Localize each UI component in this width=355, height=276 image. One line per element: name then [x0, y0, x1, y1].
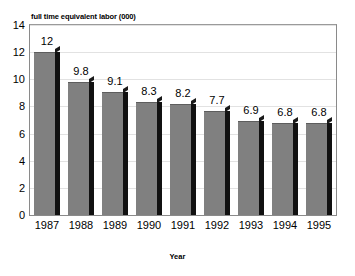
- bar-side-face: [327, 123, 332, 215]
- bar-front-face: [136, 102, 158, 215]
- y-axis: 02468101214: [0, 24, 25, 216]
- x-axis-tick-label: 1994: [268, 219, 302, 231]
- bar[interactable]: [306, 123, 333, 215]
- x-axis-tick-label: 1993: [234, 219, 268, 231]
- x-axis-tick-label: 1990: [132, 219, 166, 231]
- bar-slot: 6.9: [238, 25, 265, 215]
- bar-chart: full time equivalent labor (000) 0246810…: [0, 0, 355, 276]
- x-axis-tick-label: 1992: [200, 219, 234, 231]
- x-axis: 198719881989199019911992199319941995: [30, 219, 336, 233]
- bar-value-label: 7.7: [204, 95, 231, 106]
- bar[interactable]: [34, 52, 61, 215]
- bar-value-label: 9.8: [68, 66, 95, 77]
- x-axis-tick-label: 1987: [30, 219, 64, 231]
- y-axis-tick-label: 8: [3, 101, 25, 112]
- bar-slot: 6.8: [306, 25, 333, 215]
- bar[interactable]: [238, 121, 265, 215]
- x-axis-tick-label: 1988: [64, 219, 98, 231]
- bar-side-face: [259, 121, 264, 215]
- bar-value-label: 6.9: [238, 105, 265, 116]
- bar-slot: 8.2: [170, 25, 197, 215]
- x-axis-tick-label: 1995: [302, 219, 336, 231]
- bar[interactable]: [204, 111, 231, 216]
- bar-front-face: [272, 123, 294, 215]
- bar[interactable]: [136, 102, 163, 215]
- bar-front-face: [102, 92, 124, 216]
- bar-side-face: [225, 111, 230, 216]
- bar-slot: 9.8: [68, 25, 95, 215]
- y-axis-tick-label: 4: [3, 155, 25, 166]
- bar-side-face: [293, 123, 298, 215]
- bar-side-face: [157, 102, 162, 215]
- bar-slot: 6.8: [272, 25, 299, 215]
- y-axis-tick-label: 14: [3, 20, 25, 31]
- y-axis-tick-label: 10: [3, 74, 25, 85]
- bar-front-face: [34, 52, 56, 215]
- y-axis-tick-label: 6: [3, 128, 25, 139]
- chart-title: full time equivalent labor (000): [31, 12, 136, 21]
- bar[interactable]: [170, 104, 197, 215]
- bar-front-face: [238, 121, 260, 215]
- x-axis-tick-label: 1991: [166, 219, 200, 231]
- bar-side-face: [123, 92, 128, 216]
- bar-value-label: 6.8: [272, 107, 299, 118]
- bar-slot: 9.1: [102, 25, 129, 215]
- bars-group: 129.89.18.38.27.76.96.86.8: [30, 25, 336, 215]
- bar-value-label: 8.3: [136, 86, 163, 97]
- bar-side-face: [191, 104, 196, 215]
- x-axis-tick-label: 1989: [98, 219, 132, 231]
- bar-value-label: 12: [34, 36, 61, 47]
- bar-front-face: [306, 123, 328, 215]
- bar-slot: 12: [34, 25, 61, 215]
- bar-value-label: 8.2: [170, 88, 197, 99]
- bar[interactable]: [272, 123, 299, 215]
- x-axis-title: Year: [0, 252, 355, 261]
- bar-side-face: [55, 52, 60, 215]
- bar-front-face: [68, 82, 90, 215]
- y-axis-tick-label: 0: [3, 210, 25, 221]
- bar-front-face: [170, 104, 192, 215]
- bar-value-label: 9.1: [102, 76, 129, 87]
- bar-side-face: [89, 82, 94, 215]
- bar[interactable]: [102, 92, 129, 216]
- bar-value-label: 6.8: [306, 107, 333, 118]
- y-axis-tick-label: 12: [3, 47, 25, 58]
- bar-slot: 7.7: [204, 25, 231, 215]
- bar-front-face: [204, 111, 226, 216]
- y-axis-tick-label: 2: [3, 182, 25, 193]
- bar[interactable]: [68, 82, 95, 215]
- bar-slot: 8.3: [136, 25, 163, 215]
